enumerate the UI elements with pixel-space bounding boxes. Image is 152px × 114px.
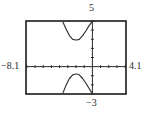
ymax-label: 5 xyxy=(89,3,94,13)
viewing-window-frame xyxy=(26,21,126,94)
curves xyxy=(63,22,92,93)
ymin-label: −3 xyxy=(86,98,97,108)
graph-plot xyxy=(0,0,152,114)
xmax-label: 4.1 xyxy=(129,61,142,71)
xmin-label: −8.1 xyxy=(1,61,19,71)
hyperbola-branch xyxy=(63,74,92,93)
hyperbola-branch xyxy=(63,22,92,40)
axes xyxy=(26,21,126,94)
